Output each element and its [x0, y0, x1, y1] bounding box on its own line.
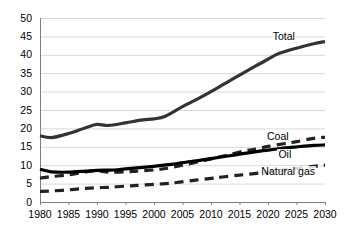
x-tick-label-1980: 1980	[25, 209, 55, 220]
natural-gas-label: Natural gas	[260, 166, 316, 177]
energy-line-chart: 05101520253035404550 1980198519901995200…	[0, 0, 349, 236]
y-tick-label-20: 20	[10, 123, 32, 134]
chart-plot-area	[0, 0, 349, 236]
x-tick-label-1985: 1985	[54, 209, 84, 220]
y-tick-label-0: 0	[10, 197, 32, 208]
x-tick-label-1990: 1990	[82, 209, 112, 220]
y-tick-label-15: 15	[10, 141, 32, 152]
x-tick-label-2000: 2000	[139, 209, 169, 220]
x-tick-label-2030: 2030	[310, 209, 340, 220]
oil-label: Oil	[277, 149, 292, 160]
y-tick-label-10: 10	[10, 160, 32, 171]
x-tick-label-2005: 2005	[168, 209, 198, 220]
x-tick-label-2010: 2010	[196, 209, 226, 220]
total-label: Total	[272, 31, 296, 42]
x-tick-label-2025: 2025	[282, 209, 312, 220]
y-tick-label-50: 50	[10, 13, 32, 24]
y-tick-label-5: 5	[10, 178, 32, 189]
x-tick-label-2015: 2015	[225, 209, 255, 220]
x-tick-label-2020: 2020	[253, 209, 283, 220]
y-tick-label-40: 40	[10, 49, 32, 60]
series-line-total	[40, 42, 325, 138]
y-tick-label-30: 30	[10, 86, 32, 97]
y-tick-label-25: 25	[10, 105, 32, 116]
x-tick-label-1995: 1995	[111, 209, 141, 220]
y-tick-label-45: 45	[10, 31, 32, 42]
y-tick-label-35: 35	[10, 68, 32, 79]
coal-label: Coal	[266, 131, 290, 142]
